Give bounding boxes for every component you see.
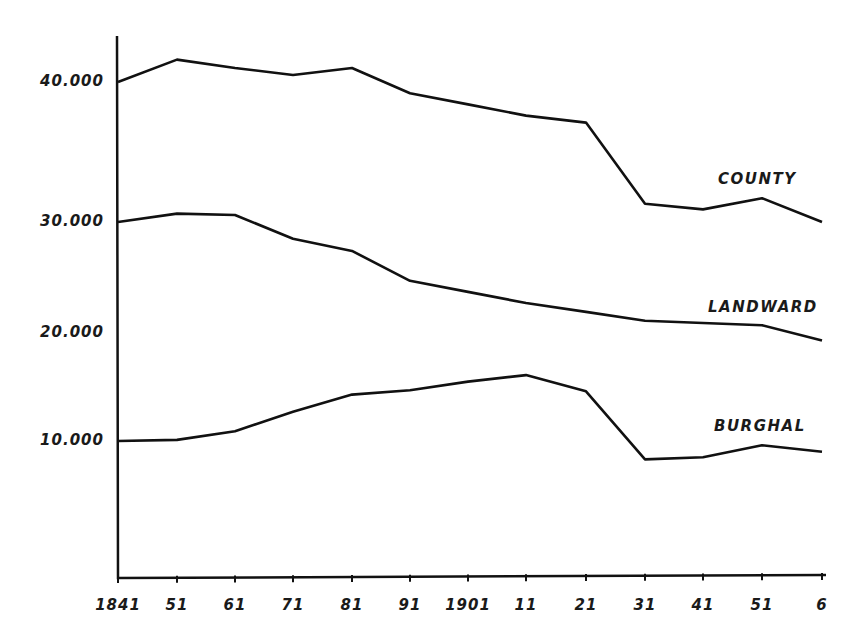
series-line-county bbox=[118, 60, 822, 222]
x-tick-label: 71 bbox=[268, 596, 318, 614]
y-tick-label: 40.000 bbox=[14, 72, 104, 90]
x-tick-label: 51 bbox=[152, 596, 202, 614]
x-tick-label: 41 bbox=[678, 596, 728, 614]
x-tick-label: 51 bbox=[737, 596, 787, 614]
y-tick-label: 30.000 bbox=[14, 212, 104, 230]
y-tick-label: 20.000 bbox=[14, 323, 104, 341]
x-tick-label: 11 bbox=[501, 596, 551, 614]
x-tick-label: 31 bbox=[620, 596, 670, 614]
series-label-county: COUNTY bbox=[718, 170, 797, 188]
x-tick-label: 91 bbox=[385, 596, 435, 614]
y-tick-label: 10.000 bbox=[14, 431, 104, 449]
x-tick-label: 1841 bbox=[93, 596, 143, 614]
line-chart bbox=[0, 0, 863, 643]
x-tick-label: 21 bbox=[561, 596, 611, 614]
x-tick-label: 6 bbox=[797, 596, 847, 614]
series-label-landward: LANDWARD bbox=[708, 298, 818, 316]
x-tick-label: 1901 bbox=[443, 596, 493, 614]
series-line-landward bbox=[118, 214, 822, 341]
x-tick-label: 81 bbox=[327, 596, 377, 614]
x-tick-label: 61 bbox=[210, 596, 260, 614]
series-label-burghal: BURGHAL bbox=[714, 417, 806, 435]
series-lines bbox=[118, 60, 822, 460]
